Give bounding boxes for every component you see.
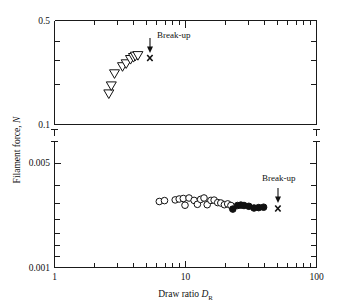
ytick-label-lower-bottom: 0.001 xyxy=(29,263,51,273)
x-axis-title-var: D xyxy=(200,289,208,299)
arrow-head-icon xyxy=(275,197,281,204)
arrow-head-icon xyxy=(147,47,153,54)
lower-panel-open-circle-series xyxy=(156,195,234,209)
upper-panel-triangle-series xyxy=(104,52,143,99)
ytick-label-upper-top: 0.5 xyxy=(38,16,50,26)
xtick-label-100: 100 xyxy=(309,272,324,282)
lower-panel-breakup-annotation: Break-up xyxy=(262,173,296,203)
lower-panel-filled-circle-series xyxy=(230,202,267,213)
data-point-open-circle xyxy=(161,197,168,204)
lower-panel-bottom-ticks xyxy=(94,261,311,268)
data-point-triangle xyxy=(110,70,120,79)
y-axis-title-text: Filament force, xyxy=(12,123,22,183)
x-axis-title-subscript: R xyxy=(208,294,213,301)
upper-panel: 0.5 0.1 Br xyxy=(38,16,316,130)
lower-panel-left-ticks xyxy=(55,163,62,268)
svg-text:Filament force, N: Filament force, N xyxy=(12,116,22,183)
upper-panel-breakup-marker xyxy=(147,55,152,61)
ytick-label-lower-top: 0.005 xyxy=(29,158,51,168)
axis-break-marks xyxy=(51,129,320,136)
data-point-triangle xyxy=(106,82,116,91)
lower-panel: 0.005 0.001 xyxy=(29,142,324,283)
data-point-filled-circle xyxy=(260,204,267,211)
lower-panel-breakup-marker xyxy=(275,206,280,212)
data-point-open-circle xyxy=(182,202,189,209)
upper-panel-breakup-label: Break-up xyxy=(157,30,191,40)
figure-container: 0.5 0.1 Br xyxy=(0,0,359,307)
upper-panel-left-ticks xyxy=(55,21,62,125)
xtick-label-10: 10 xyxy=(181,272,191,282)
ytick-label-upper-bottom: 0.1 xyxy=(38,120,50,130)
filament-force-vs-draw-ratio-chart: 0.5 0.1 Br xyxy=(0,0,359,307)
xtick-label-1: 1 xyxy=(52,272,57,282)
y-axis-title-unit: N xyxy=(12,116,22,124)
upper-panel-breakup-annotation: Break-up xyxy=(147,30,191,53)
lower-panel-breakup-label: Break-up xyxy=(262,173,296,183)
data-point-triangle xyxy=(104,90,114,99)
svg-text:Draw ratio DR: Draw ratio DR xyxy=(158,289,213,301)
lower-panel-right-ticks xyxy=(310,163,317,257)
x-axis-title-text: Draw ratio xyxy=(158,289,201,299)
x-axis-title: Draw ratio DR xyxy=(158,289,213,301)
y-axis-title: Filament force, N xyxy=(12,116,22,183)
data-point-open-circle xyxy=(201,195,208,202)
upper-panel-top-ticks xyxy=(94,21,311,29)
upper-panel-right-ticks xyxy=(311,41,317,84)
